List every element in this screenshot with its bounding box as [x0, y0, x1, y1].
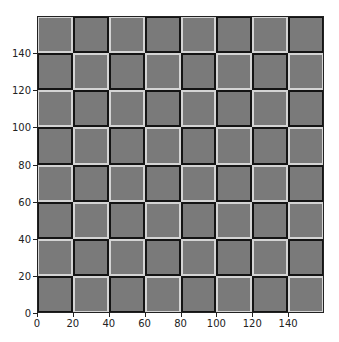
checker-cell — [109, 239, 145, 276]
y-tick-label: 80 — [3, 159, 31, 170]
x-tick — [145, 313, 146, 317]
checker-cell — [181, 202, 217, 239]
checker-cell — [252, 239, 288, 276]
checker-cell — [109, 53, 145, 90]
checker-cell — [37, 127, 73, 164]
checker-cell — [181, 239, 217, 276]
checker-cell — [37, 239, 73, 276]
checker-cell — [73, 16, 109, 53]
checker-cell — [73, 276, 109, 313]
checker-cell — [109, 90, 145, 127]
x-tick-label: 80 — [174, 318, 187, 329]
checker-cell — [145, 127, 181, 164]
checker-cell — [252, 16, 288, 53]
checker-cell — [145, 90, 181, 127]
checker-cell — [216, 53, 252, 90]
x-tick — [181, 313, 182, 317]
checker-cell — [145, 202, 181, 239]
checker-cell — [109, 165, 145, 202]
y-tick-label: 40 — [3, 233, 31, 244]
x-tick — [288, 313, 289, 317]
checker-cell — [181, 127, 217, 164]
checker-cell — [37, 202, 73, 239]
y-tick — [33, 53, 37, 54]
checker-cell — [181, 276, 217, 313]
checker-cell — [252, 90, 288, 127]
checker-cell — [288, 16, 324, 53]
checker-cell — [145, 165, 181, 202]
x-tick — [252, 313, 253, 317]
checker-cell — [37, 53, 73, 90]
checker-cell — [73, 202, 109, 239]
checker-cell — [109, 127, 145, 164]
y-tick — [33, 165, 37, 166]
checker-cell — [288, 239, 324, 276]
checker-cell — [216, 165, 252, 202]
y-tick — [33, 276, 37, 277]
checker-cell — [181, 90, 217, 127]
checker-cell — [145, 16, 181, 53]
checker-cell — [288, 127, 324, 164]
checker-cell — [252, 165, 288, 202]
y-tick-label: 140 — [3, 48, 31, 59]
x-tick — [216, 313, 217, 317]
checker-cell — [181, 53, 217, 90]
x-tick — [73, 313, 74, 317]
checker-cell — [73, 239, 109, 276]
checker-cell — [73, 127, 109, 164]
checker-cell — [37, 90, 73, 127]
y-tick — [33, 127, 37, 128]
y-tick — [33, 202, 37, 203]
plot-area — [37, 16, 324, 313]
x-tick-label: 100 — [207, 318, 226, 329]
checker-cell — [252, 202, 288, 239]
x-tick-label: 0 — [34, 318, 40, 329]
checker-cell — [252, 53, 288, 90]
x-tick-label: 40 — [102, 318, 115, 329]
checker-cell — [288, 202, 324, 239]
checker-cell — [288, 53, 324, 90]
checker-cell — [73, 165, 109, 202]
y-tick-label: 100 — [3, 122, 31, 133]
checker-cell — [216, 276, 252, 313]
checker-cell — [216, 90, 252, 127]
checker-cell — [288, 165, 324, 202]
checker-cell — [109, 276, 145, 313]
checker-cell — [252, 276, 288, 313]
x-tick — [109, 313, 110, 317]
checker-cell — [252, 127, 288, 164]
checker-cell — [181, 16, 217, 53]
x-tick-label: 120 — [243, 318, 262, 329]
y-tick-label: 60 — [3, 196, 31, 207]
checker-cell — [216, 202, 252, 239]
x-tick-label: 60 — [138, 318, 151, 329]
checker-cell — [37, 165, 73, 202]
checker-cell — [37, 276, 73, 313]
checker-cell — [216, 16, 252, 53]
checker-cell — [109, 202, 145, 239]
y-tick-label: 0 — [3, 308, 31, 319]
checker-cell — [145, 53, 181, 90]
checker-cell — [181, 165, 217, 202]
checker-cell — [145, 276, 181, 313]
y-tick — [33, 313, 37, 314]
y-tick-label: 20 — [3, 270, 31, 281]
x-tick — [37, 313, 38, 317]
checker-cell — [73, 53, 109, 90]
checker-cell — [288, 90, 324, 127]
x-tick-label: 140 — [279, 318, 298, 329]
y-tick — [33, 90, 37, 91]
checker-cell — [73, 90, 109, 127]
checker-cell — [216, 239, 252, 276]
checker-cell — [288, 276, 324, 313]
y-tick-label: 120 — [3, 85, 31, 96]
checker-cell — [216, 127, 252, 164]
y-tick — [33, 239, 37, 240]
x-tick-label: 20 — [67, 318, 80, 329]
checker-cell — [145, 239, 181, 276]
checker-cell — [109, 16, 145, 53]
checker-cell — [37, 16, 73, 53]
